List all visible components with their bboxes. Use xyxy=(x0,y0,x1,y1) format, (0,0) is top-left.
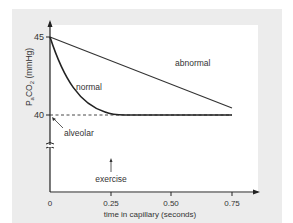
y-axis-label: PaCO2 (mmHg) xyxy=(24,48,35,106)
y-axis-arrow-icon xyxy=(48,20,53,27)
x-axis-label: time in capillary (seconds) xyxy=(104,210,197,219)
y-tick-40: 40 xyxy=(34,110,44,120)
normal-label: normal xyxy=(76,82,102,92)
y-tick-45: 45 xyxy=(34,32,44,42)
x-tick-050: 0.50 xyxy=(163,199,179,208)
x-tick-0: 0 xyxy=(48,199,53,208)
x-tick-075: 0.75 xyxy=(224,199,240,208)
exercise-label: exercise xyxy=(95,174,127,184)
alveolar-label: alveolar xyxy=(64,128,94,138)
plot-area xyxy=(50,25,258,193)
chart: 45 40 0 0.25 0.50 0.75 time in capillary… xyxy=(0,0,293,223)
abnormal-label: abnormal xyxy=(175,58,211,68)
x-tick-025: 0.25 xyxy=(103,199,119,208)
